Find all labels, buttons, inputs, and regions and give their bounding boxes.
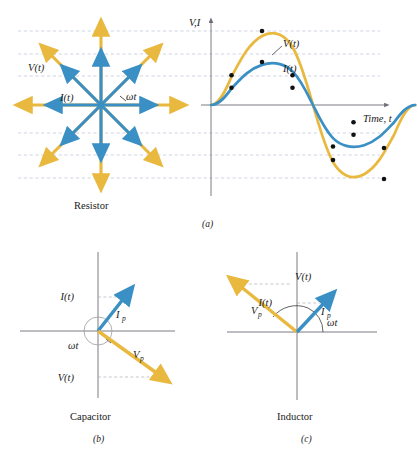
capacitor-vt-label: V(t) xyxy=(58,372,75,384)
panel-c: V(t) I(t) ωt V p I p Inductor (c) xyxy=(209,240,418,449)
panel-a-tag: (a) xyxy=(202,219,213,230)
capacitor-omega-t-label: ωt xyxy=(68,340,79,351)
current-phasor-star xyxy=(59,63,143,147)
capacitor-voltage-phasor xyxy=(98,331,158,374)
capacitor-ip-label: I p xyxy=(115,309,126,323)
voltage-curve-markers-extra xyxy=(331,158,336,163)
panel-b: I(t) V(t) ωt I p V p Capacitor (b) xyxy=(0,240,209,449)
figure-caption-number: FIGURE 22-7 xyxy=(4,442,56,444)
capacitor-vp-subscript: p xyxy=(139,354,144,363)
inductor-it-label: I(t) xyxy=(258,297,273,309)
capacitor-ip-letter: I xyxy=(115,309,120,320)
panel-a-name: Resistor xyxy=(74,200,109,211)
capacitor-axes xyxy=(20,252,175,398)
inductor-vt-label: V(t) xyxy=(295,271,312,283)
panel-a: V(t) I(t) ωt Resistor xyxy=(0,0,418,232)
graph-x-axis-label: Time, t xyxy=(363,113,393,124)
resistor-current-label: I(t) xyxy=(59,92,74,104)
panel-b-name: Capacitor xyxy=(70,411,111,422)
graph-current-label: I(t) xyxy=(282,63,297,75)
panel-c-name: Inductor xyxy=(277,411,313,422)
inductor-ip-letter: I xyxy=(320,306,325,317)
resistor-omega-t-label: ωt xyxy=(126,91,137,102)
inductor-vp-subscript: p xyxy=(257,310,262,319)
graph-y-axis-label: V,I xyxy=(189,17,201,28)
inductor-ip-subscript: p xyxy=(326,311,331,320)
inductor-voltage-phasor xyxy=(240,286,297,332)
panel-a-graph: V,I Time, t V(t) I(t) xyxy=(189,17,415,196)
figure-caption-text: Phasor diagrams and time plots xyxy=(60,442,167,444)
resistor-voltage-label: V(t) xyxy=(28,62,45,74)
capacitor-ip-subscript: p xyxy=(121,314,126,323)
graph-voltage-label: V(t) xyxy=(283,38,300,50)
figure-caption: FIGURE 22-7 Phasor diagrams and time plo… xyxy=(4,436,418,444)
inductor-ip-label: I p xyxy=(320,306,331,320)
capacitor-it-label: I(t) xyxy=(60,291,75,303)
